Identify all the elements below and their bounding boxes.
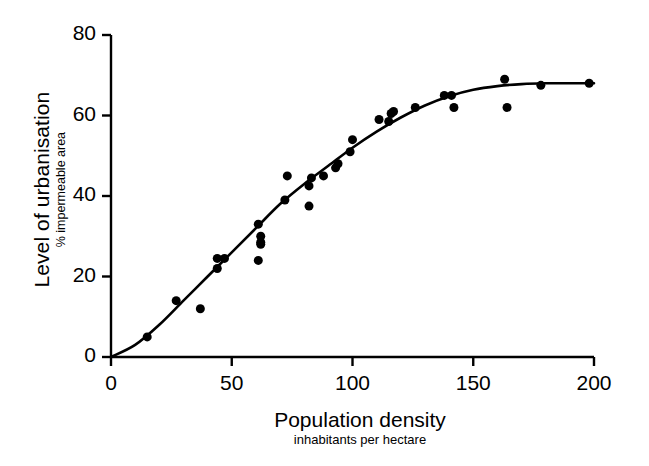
data-point	[280, 196, 289, 205]
data-point	[447, 91, 456, 100]
y-tick-label-80: 80	[73, 21, 96, 45]
fit-curve-layer	[111, 83, 594, 357]
plot-area	[0, 0, 649, 466]
data-point	[375, 115, 384, 124]
data-point	[449, 103, 458, 112]
x-axis-title: Population density	[110, 408, 610, 432]
y-tick-label-40: 40	[73, 182, 96, 206]
data-point	[196, 304, 205, 313]
y-tick-label-0: 0	[84, 343, 96, 367]
x-tick-label-100: 100	[313, 371, 393, 395]
x-axis-subtitle: inhabitants per hectare	[110, 433, 610, 448]
y-tick-label-60: 60	[73, 102, 96, 126]
data-point	[254, 256, 263, 265]
data-point	[585, 79, 594, 88]
x-tick-label-50: 50	[192, 371, 272, 395]
urbanisation-vs-density-chart: Level of urbanisation % impermeable area…	[0, 0, 649, 466]
data-point	[389, 107, 398, 116]
data-point	[348, 135, 357, 144]
data-point	[213, 264, 222, 273]
data-point	[305, 181, 314, 190]
data-point	[536, 81, 545, 90]
data-point	[319, 171, 328, 180]
data-point	[283, 171, 292, 180]
data-point	[503, 103, 512, 112]
x-axis-label-container: Population density inhabitants per hecta…	[110, 408, 610, 447]
data-point	[307, 173, 316, 182]
data-point	[254, 220, 263, 229]
data-point	[220, 254, 229, 263]
fit-curve	[111, 83, 594, 357]
data-point	[334, 159, 343, 168]
data-point	[305, 202, 314, 211]
data-point	[172, 296, 181, 305]
data-point	[500, 75, 509, 84]
data-point	[411, 103, 420, 112]
x-tick-label-150: 150	[433, 371, 513, 395]
data-points-layer	[143, 75, 594, 342]
x-tick-label-0: 0	[71, 371, 151, 395]
y-tick-label-20: 20	[73, 263, 96, 287]
data-point	[143, 332, 152, 341]
data-point	[256, 240, 265, 249]
x-tick-label-200: 200	[554, 371, 634, 395]
data-point	[384, 117, 393, 126]
data-point	[346, 147, 355, 156]
